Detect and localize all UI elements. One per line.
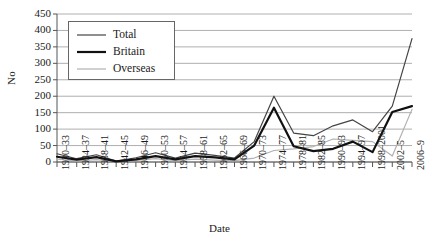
x-tick-label: 1954–57 [179, 135, 189, 170]
legend-label-britain: Britain [113, 45, 145, 57]
y-axis-title: No [5, 58, 17, 98]
y-tick-label: 300 [17, 57, 51, 68]
y-tick-label: 0 [17, 156, 51, 167]
chart-plot-area [0, 0, 439, 245]
x-tick-label: 1994–97 [357, 135, 367, 170]
x-tick-label: 1978–81 [298, 135, 308, 170]
x-tick-label: 1962–65 [219, 135, 229, 170]
x-tick-label: 2006–9 [416, 140, 426, 170]
x-tick-label: 1966–69 [239, 135, 249, 170]
y-tick-label: 200 [17, 90, 51, 101]
y-tick-label: 400 [17, 24, 51, 35]
x-tick-label: 1982–85 [317, 135, 327, 170]
y-tick-label: 250 [17, 74, 51, 85]
x-tick-label: 1970–73 [258, 135, 268, 170]
x-tick-label: 1958–61 [199, 135, 209, 170]
legend-label-total: Total [113, 28, 136, 40]
y-tick-label: 450 [17, 8, 51, 19]
x-tick-label: 2002–5 [396, 140, 406, 170]
legend-label-overseas: Overseas [113, 62, 155, 74]
x-tick-label: 1974–77 [278, 135, 288, 170]
line-chart: No Date 050100150200250300350400450 1930… [0, 0, 439, 245]
y-tick-label: 100 [17, 123, 51, 134]
x-tick-label: 1938–41 [100, 135, 110, 170]
x-tick-label: 1998–2001 [377, 125, 387, 170]
y-tick-label: 50 [17, 140, 51, 151]
x-tick-label: 1942–45 [120, 135, 130, 170]
x-axis-title: Date [0, 222, 439, 234]
x-tick-label: 1934–37 [81, 135, 91, 170]
x-tick-label: 1946–49 [140, 135, 150, 170]
x-tick-label: 1930–33 [61, 135, 71, 170]
y-tick-label: 350 [17, 41, 51, 52]
x-tick-label: 1990–93 [337, 135, 347, 170]
y-tick-label: 150 [17, 107, 51, 118]
x-tick-label: 1950–53 [160, 135, 170, 170]
